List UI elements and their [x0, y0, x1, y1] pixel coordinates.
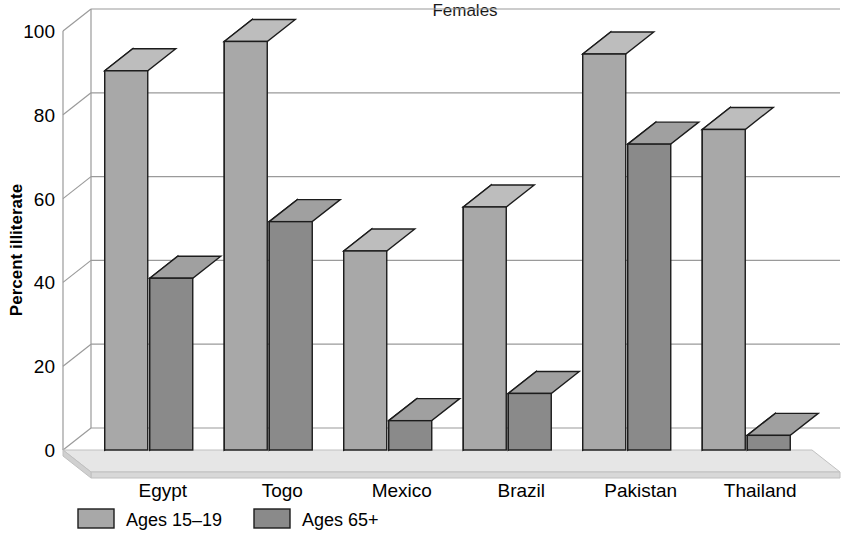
bar-top-face	[747, 413, 818, 435]
y-axis-tick-label: 100	[23, 21, 55, 42]
category-labels: EgyptTogoMexicoBrazilPakistanThailand	[138, 480, 796, 501]
axis-tick-connector	[63, 260, 91, 282]
axis-tick-connector	[63, 9, 91, 31]
x-axis-category-label: Thailand	[724, 480, 797, 501]
x-axis-category-label: Brazil	[497, 480, 545, 501]
y-axis-tick-label: 80	[34, 105, 55, 126]
bar-top-face	[628, 122, 699, 144]
legend-swatch	[254, 509, 290, 528]
y-axis-tick-label: 0	[44, 440, 55, 461]
y-axis-tick-labels: 020406080100	[23, 21, 55, 461]
bar-front-face	[269, 222, 312, 450]
axis-tick-connector	[63, 93, 91, 115]
legend-item[interactable]: Ages 65+	[254, 509, 379, 530]
bar	[269, 200, 340, 450]
bar-top-face	[702, 107, 773, 129]
bar	[150, 256, 221, 450]
bar-top-face	[463, 185, 534, 207]
bar	[702, 107, 773, 450]
x-axis-category-label: Togo	[262, 480, 303, 501]
bar	[747, 413, 818, 450]
bar-top-face	[583, 32, 654, 54]
chart-legend: Ages 15–19Ages 65+	[78, 509, 379, 530]
axis-tick-connector	[63, 428, 91, 450]
chart-container: Females Percent illiterate 020406080100 …	[0, 0, 845, 535]
bar-top-face	[105, 49, 176, 71]
bar-top-face	[224, 19, 295, 41]
bar-front-face	[747, 435, 790, 450]
y-axis-title: Percent illiterate	[7, 184, 26, 316]
bar-front-face	[702, 129, 745, 450]
x-axis-category-label: Egypt	[138, 480, 187, 501]
bars-layer	[105, 19, 819, 450]
bar-front-face	[344, 251, 387, 450]
axis-tick-connector	[63, 177, 91, 199]
bar-front-face	[150, 278, 193, 450]
bar-top-face	[389, 399, 460, 421]
bar-front-face	[508, 393, 551, 450]
legend-label: Ages 65+	[302, 510, 379, 530]
y-axis-tick-label: 60	[34, 189, 55, 210]
bar-front-face	[628, 144, 671, 450]
bar-front-face	[389, 421, 432, 450]
x-axis-category-label: Pakistan	[604, 480, 677, 501]
bar-top-face	[150, 256, 221, 278]
bar-front-face	[463, 207, 506, 450]
axis-tick-connector	[63, 344, 91, 366]
bar	[628, 122, 699, 450]
y-axis-tick-label: 40	[34, 272, 55, 293]
legend-item[interactable]: Ages 15–19	[78, 509, 222, 530]
bar-top-face	[269, 200, 340, 222]
bar-front-face	[224, 41, 267, 450]
bar-front-face	[583, 54, 626, 450]
bar	[508, 371, 579, 450]
bar-top-face	[344, 229, 415, 251]
bar-chart: Females Percent illiterate 020406080100 …	[0, 0, 845, 535]
legend-swatch	[78, 509, 114, 528]
chart-title: Females	[432, 1, 497, 20]
y-axis-tick-label: 20	[34, 356, 55, 377]
x-axis-category-label: Mexico	[372, 480, 432, 501]
legend-label: Ages 15–19	[126, 510, 222, 530]
bar-front-face	[105, 71, 148, 450]
chart-floor	[63, 450, 840, 478]
bar	[389, 399, 460, 450]
bar-top-face	[508, 371, 579, 393]
